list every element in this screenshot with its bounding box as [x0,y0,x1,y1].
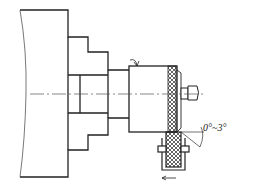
feed-arrow-icon [162,176,176,180]
knurling-tool [158,132,189,180]
tailstock-center [181,86,199,100]
chuck-body [20,10,129,177]
angle-label: 0°~3° [203,122,226,133]
diagram-canvas: 0°~3° [0,0,259,194]
rotation-arrow-icon [130,60,139,66]
workpiece [129,60,181,132]
knurling-drawing [0,0,259,194]
